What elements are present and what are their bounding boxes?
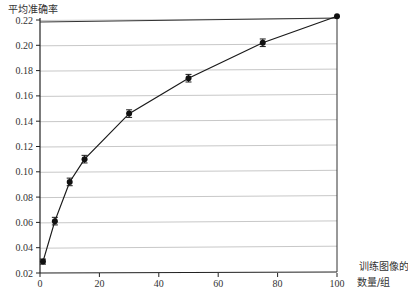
gridline [40, 44, 337, 46]
data-point-marker [260, 40, 266, 46]
x-axis-title-line1: 训练图像的 [359, 260, 408, 272]
y-tick-label: 0.08 [16, 192, 34, 203]
data-point-marker [40, 259, 46, 265]
series-line [43, 16, 337, 261]
data-point-marker [334, 13, 340, 19]
data-point-marker [186, 75, 192, 81]
gridline [40, 145, 337, 147]
y-axis-title: 平均准确率 [8, 3, 58, 15]
x-axis-line [40, 272, 337, 273]
y-tick-label: 0.02 [16, 268, 34, 279]
x-tick-label: 40 [154, 278, 164, 289]
x-tick-label: 80 [273, 278, 283, 289]
x-axis-ticks: 020406080100 [38, 273, 345, 289]
data-point-marker [126, 111, 132, 117]
accuracy-chart: 0.020.040.060.080.100.120.140.160.180.20… [0, 0, 408, 302]
gridline [40, 94, 337, 96]
y-axis-ticks: 0.020.040.060.080.100.120.140.160.180.20… [16, 15, 41, 279]
data-point-marker [52, 218, 58, 224]
x-tick-label: 100 [330, 278, 345, 289]
gridlines [40, 19, 337, 249]
y-tick-label: 0.06 [16, 217, 34, 228]
y-tick-label: 0.10 [16, 166, 34, 177]
gridline [40, 196, 337, 198]
y-tick-label: 0.12 [16, 141, 34, 152]
data-point-marker [67, 179, 73, 185]
gridline [40, 170, 337, 172]
gridline [40, 221, 337, 223]
y-tick-label: 0.14 [16, 116, 34, 127]
x-tick-label: 0 [38, 278, 43, 289]
gridline [40, 120, 337, 122]
data-point-marker [82, 156, 88, 162]
y-tick-label: 0.22 [16, 15, 34, 26]
x-tick-label: 60 [213, 278, 223, 289]
x-axis-title-line2: 数量/组 [357, 276, 390, 288]
y-tick-label: 0.18 [16, 65, 34, 76]
x-tick-label: 20 [94, 278, 104, 289]
y-tick-label: 0.16 [16, 90, 34, 101]
gridline [40, 246, 337, 248]
gridline [40, 69, 337, 71]
data-series [40, 13, 340, 264]
y-tick-label: 0.04 [16, 242, 34, 253]
y-tick-label: 0.20 [16, 40, 34, 51]
